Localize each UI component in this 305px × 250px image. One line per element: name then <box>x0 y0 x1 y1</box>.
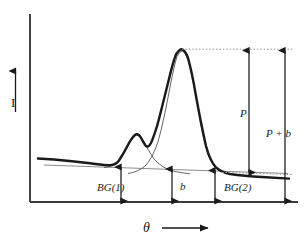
b-label: b <box>180 181 186 192</box>
x-axis-label: θ <box>143 221 150 235</box>
bg2-label: BG(2) <box>224 182 252 193</box>
background-baseline <box>44 165 288 174</box>
peak-intensity-diagram: I θ BG(1) b BG(2) P P + b <box>0 0 305 250</box>
deconvolved-peak-2-curve <box>128 51 236 175</box>
measured-profile-curve <box>38 49 289 178</box>
p-plus-b-label: P + b <box>266 128 291 139</box>
axis-frame <box>30 14 298 202</box>
y-axis-label: I <box>11 96 15 109</box>
diagram-canvas <box>0 0 305 250</box>
bg1-label: BG(1) <box>97 182 125 193</box>
p-label: P <box>240 108 247 119</box>
